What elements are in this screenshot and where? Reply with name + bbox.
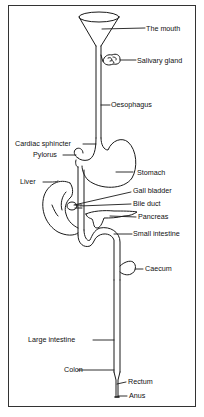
stomach-shape bbox=[78, 138, 136, 187]
label-stomach: Stomach bbox=[137, 169, 165, 177]
caecum-shape bbox=[120, 261, 135, 275]
label-cardiac-sphincter: Cardiac sphincter bbox=[15, 140, 71, 148]
label-anus: Anus bbox=[129, 392, 145, 400]
label-liver: Liver bbox=[20, 178, 36, 186]
pancreas-shape bbox=[86, 211, 137, 228]
label-salivary-gland: Salivary gland bbox=[137, 57, 182, 65]
label-pylorus: Pylorus bbox=[33, 151, 57, 159]
label-gall-bladder: Gall bladder bbox=[133, 187, 172, 195]
small-intestine-tube bbox=[78, 228, 120, 280]
large-intestine-tube bbox=[114, 280, 120, 372]
gall-bladder-shape bbox=[67, 202, 77, 210]
label-rectum: Rectum bbox=[128, 378, 153, 386]
label-colon: Colon bbox=[64, 366, 83, 374]
duodenum-tube bbox=[78, 167, 84, 235]
pylorus-shape bbox=[74, 148, 83, 167]
oesophagus-tube bbox=[96, 46, 101, 138]
label-mouth: The mouth bbox=[146, 25, 180, 33]
rectum-tube bbox=[114, 372, 120, 397]
label-large-intestine: Large intestine bbox=[28, 336, 75, 344]
label-bile-duct: Bile duct bbox=[133, 200, 161, 208]
liver-shape bbox=[43, 181, 78, 235]
label-caecum: Caecum bbox=[145, 265, 172, 273]
label-small-intestine: Small intestine bbox=[133, 230, 180, 238]
salivary-gland-shape bbox=[101, 54, 120, 65]
label-pancreas: Pancreas bbox=[138, 213, 168, 221]
label-oesophagus: Oesophagus bbox=[111, 101, 152, 109]
